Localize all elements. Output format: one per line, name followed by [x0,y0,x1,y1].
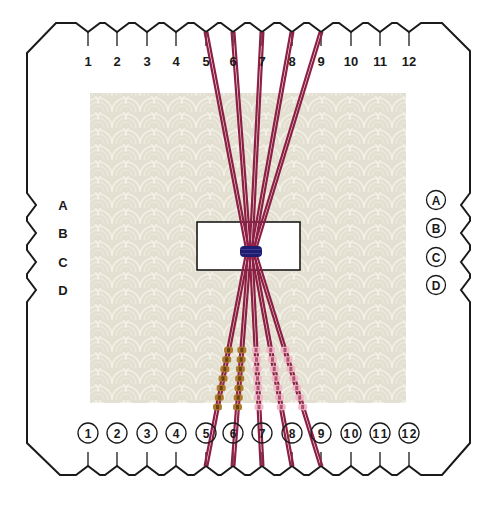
bottom-slot-label: 6 [223,423,243,443]
left-slot-labels: ABCD [58,198,68,298]
top-slot-labels: 123456789101112 [84,54,416,69]
svg-text:10: 10 [344,427,359,441]
left-slot-label: D [58,283,67,298]
bottom-slot-label: 1 [78,423,98,443]
top-slot-label: 9 [317,54,324,69]
right-slot-label: D [427,276,446,295]
bottom-slot-label: 12 [399,423,419,443]
kumihimo-plate-diagram: 123456789101112 123456789101112 ABCD ABC… [0,0,501,511]
bottom-slot-label: 2 [107,423,127,443]
bottom-slot-labels: 123456789101112 [78,423,419,443]
top-slot-label: 12 [402,54,416,69]
svg-text:B: B [432,222,441,236]
top-slot-label: 3 [143,54,150,69]
top-slot-label: 8 [288,54,295,69]
bottom-slot-label: 3 [137,423,157,443]
top-slot-label: 5 [202,54,209,69]
svg-text:3: 3 [144,427,151,441]
svg-text:11: 11 [373,427,388,441]
top-slot-label: 6 [229,54,236,69]
bottom-slot-label: 9 [311,423,331,443]
svg-text:9: 9 [318,427,325,441]
bottom-slot-label: 10 [341,423,361,443]
right-slot-label: A [427,191,446,210]
top-slot-label: 4 [172,54,180,69]
bottom-slot-ticks [88,452,409,466]
svg-text:D: D [432,279,441,293]
left-slot-label: C [58,255,68,270]
svg-text:6: 6 [230,427,237,441]
left-slot-label: B [58,226,67,241]
svg-text:12: 12 [402,427,417,441]
top-slot-label: 7 [258,54,265,69]
right-slot-labels: ABCD [427,191,446,295]
svg-text:1: 1 [85,427,92,441]
svg-text:4: 4 [173,427,180,441]
top-slot-ticks [88,32,409,46]
svg-text:2: 2 [114,427,121,441]
right-slot-label: C [427,248,446,267]
binding-knot [240,246,262,257]
svg-text:A: A [432,194,441,208]
top-slot-label: 2 [113,54,120,69]
left-slot-label: A [58,198,68,213]
top-slot-label: 10 [344,54,358,69]
svg-text:7: 7 [259,427,266,441]
right-slot-label: B [427,219,446,238]
top-slot-label: 11 [373,54,387,69]
bottom-slot-label: 4 [166,423,186,443]
svg-text:C: C [432,251,441,265]
svg-text:5: 5 [203,427,210,441]
svg-text:8: 8 [289,427,296,441]
top-slot-label: 1 [84,54,91,69]
bottom-slot-label: 11 [370,423,390,443]
